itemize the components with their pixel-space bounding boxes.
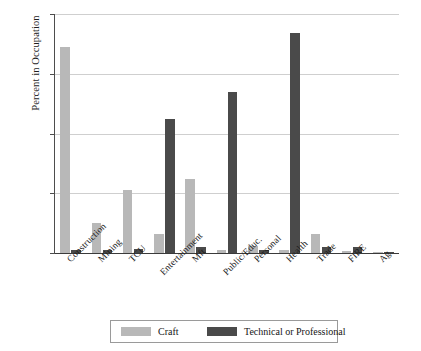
bar-group xyxy=(149,14,180,253)
bar-group xyxy=(243,14,274,253)
bar-public-educ-technical-or-professional xyxy=(228,92,238,253)
bar-entertainment-technical-or-professional xyxy=(165,119,175,253)
bar-tcu-craft xyxy=(123,190,133,253)
bar-chart-figure: Percent in Occupation 020406080 Construc… xyxy=(0,0,421,351)
bar-group xyxy=(180,14,211,253)
bar-group xyxy=(86,14,117,253)
bar-series-container xyxy=(55,14,399,253)
legend-item-technical-or-professional: Technical or Professional xyxy=(207,321,346,342)
legend-swatch-technical-or-professional xyxy=(207,327,237,336)
chart-legend: CraftTechnical or Professional xyxy=(110,320,338,343)
legend-label: Craft xyxy=(158,321,179,342)
x-axis-tick-labels: ConstructionMiningTCUEntertainmentMftPub… xyxy=(54,253,414,313)
bar-health-technical-or-professional xyxy=(290,33,300,253)
bar-group xyxy=(274,14,305,253)
bar-group xyxy=(55,14,86,253)
legend-label: Technical or Professional xyxy=(244,321,346,342)
bar-construction-craft xyxy=(60,47,70,253)
bar-group xyxy=(336,14,367,253)
legend-swatch-craft xyxy=(121,327,151,336)
bar-trade-craft xyxy=(311,234,321,253)
legend-item-craft: Craft xyxy=(121,321,179,342)
plot-area xyxy=(54,14,399,253)
bar-group xyxy=(305,14,336,253)
bar-group xyxy=(368,14,399,253)
y-axis-title: Percent in Occupation xyxy=(28,0,44,143)
bar-group xyxy=(118,14,149,253)
bar-entertainment-craft xyxy=(154,234,164,253)
bar-group xyxy=(211,14,242,253)
